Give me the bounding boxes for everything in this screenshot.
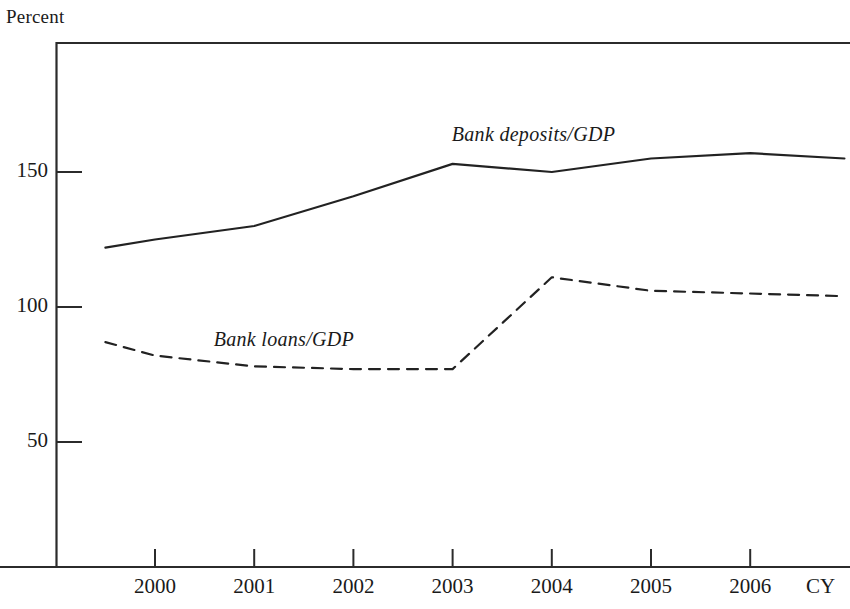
line-chart-canvas	[0, 0, 850, 609]
series-line-0	[105, 153, 844, 248]
plot-frame	[0, 42, 850, 567]
x-axis-tick-label: 2006	[710, 574, 790, 599]
chart-figure: Percent 50100150 20002001200220032004200…	[0, 0, 850, 609]
x-axis-tick-label: 2005	[611, 574, 691, 599]
x-axis-tick-label: 2002	[313, 574, 393, 599]
y-axis-tick-label: 50	[0, 428, 48, 453]
y-axis-tick-label: 100	[0, 293, 48, 318]
x-axis-tick-label: 2000	[115, 574, 195, 599]
y-axis-tick-label: 150	[0, 158, 48, 183]
series-label-1: Bank loans/GDP	[214, 328, 354, 351]
x-axis-caption: CY	[806, 574, 835, 599]
y-axis-ticks	[56, 172, 82, 442]
x-axis-ticks	[155, 549, 750, 567]
x-axis-tick-label: 2004	[512, 574, 592, 599]
x-axis-tick-label: 2003	[413, 574, 493, 599]
series-line-1	[105, 277, 844, 369]
x-axis-tick-label: 2001	[214, 574, 294, 599]
series-label-0: Bank deposits/GDP	[452, 123, 615, 146]
